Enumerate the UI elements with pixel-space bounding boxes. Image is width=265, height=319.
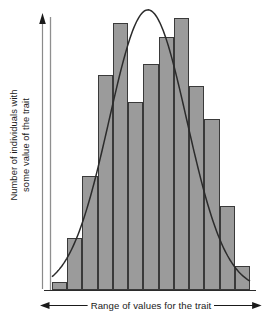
normal-curve [52, 18, 250, 290]
x-axis-label-text: Range of values for the trait [88, 300, 215, 311]
normal-curve-path [52, 10, 250, 281]
y-axis-arrow-icon [39, 13, 46, 289]
plot-area [52, 18, 250, 290]
x-axis-label: Range of values for the trait [40, 295, 262, 315]
x-axis-arrow-right-icon [214, 300, 262, 311]
x-axis-arrow-left-icon [40, 300, 88, 311]
histogram-figure: Number of individuals with some value of… [0, 0, 265, 319]
